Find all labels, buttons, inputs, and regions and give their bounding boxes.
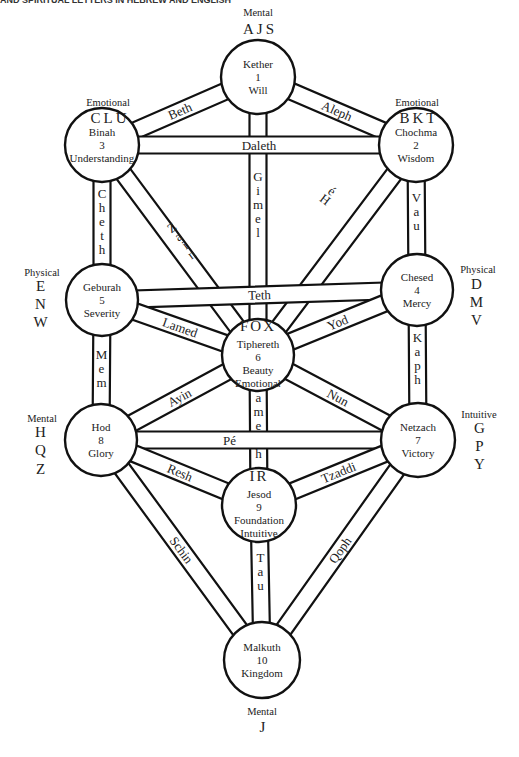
sephira-jesod: IRJesod9FoundationIntuitive: [222, 468, 296, 543]
path-gimel: Gimel: [250, 77, 267, 355]
sephira-text: Severity: [84, 307, 121, 319]
sephira-text: Will: [248, 84, 267, 96]
sephira-text: Emotional: [235, 377, 281, 389]
binah-letters: CLU: [91, 110, 130, 126]
path-label: Pé: [223, 433, 236, 448]
chochma-letters: BKT: [400, 110, 439, 126]
sephira-text: FOX: [240, 318, 276, 334]
sephira-text: Tiphereth: [237, 338, 280, 350]
sephira-text: Malkuth: [243, 641, 281, 653]
sephira-text: Foundation: [234, 514, 285, 526]
netzach-letter-3: Y: [474, 456, 488, 472]
path-label-letter: m: [253, 197, 263, 212]
path-label: Teth: [248, 287, 272, 303]
netzach-category: Intuitive: [461, 409, 497, 420]
sephira-text: Chochma: [395, 126, 437, 138]
sephira-text: 5: [99, 294, 105, 306]
sephira-text: Kether: [243, 58, 273, 70]
path-label-letter: V: [412, 190, 422, 205]
path-label-letter: h: [99, 200, 106, 215]
sephira-kether: Kether1Will: [221, 40, 295, 114]
hod-letter-1: H: [35, 424, 49, 440]
sephira-text: Victory: [402, 447, 435, 459]
malkuth-category: Mental: [247, 706, 277, 717]
path-label-letter: m: [96, 375, 106, 390]
netzach-letter-1: G: [474, 420, 488, 436]
path-daleth: Daleth: [102, 137, 416, 154]
sephira-text: 2: [413, 139, 419, 151]
chesed-letter-2: M: [470, 294, 486, 310]
path-label-letter: M: [96, 347, 108, 362]
sephira-text: Beauty: [242, 364, 274, 376]
path-label-letter: t: [100, 228, 104, 243]
tree-of-life-diagram: AlephBethGimelDalethHéVauZainChethTethYo…: [0, 0, 519, 757]
hod-category: Mental: [27, 413, 57, 424]
path-label-letter: h: [414, 372, 421, 387]
sephira-text: Mercy: [403, 297, 432, 309]
hod-letter-2: Q: [35, 442, 49, 458]
geburah-letter-1: E: [36, 278, 48, 294]
sephira-text: 7: [415, 434, 421, 446]
sephira-text: Hod: [92, 421, 111, 433]
sephira-text: 6: [255, 351, 261, 363]
path-label-letter: u: [413, 218, 420, 233]
sephira-text: Wisdom: [398, 152, 435, 164]
geburah-category: Physical: [24, 267, 60, 278]
binah-category: Emotional: [86, 97, 130, 108]
sephira-text: Netzach: [400, 421, 437, 433]
path-label: Daleth: [242, 138, 277, 153]
path-label-letter: u: [257, 578, 264, 593]
path-label-letter: C: [98, 186, 107, 201]
sephira-hod: Hod8Glory: [65, 404, 137, 476]
kether-category: Mental: [243, 7, 273, 18]
sephira-text: 1: [255, 71, 261, 83]
path-label-letter: m: [253, 404, 263, 419]
path-label-letter: p: [414, 358, 421, 373]
malkuth-letters: J: [260, 719, 269, 735]
path-label-letter: e: [99, 361, 105, 376]
netzach-letter-2: P: [475, 438, 486, 454]
sephira-text: Binah: [89, 126, 116, 138]
sephira-malkuth: Malkuth10Kingdom: [224, 622, 300, 698]
path-label-letter: a: [256, 390, 262, 405]
hod-letter-3: Z: [36, 461, 48, 477]
sephira-text: Intuitive: [240, 527, 277, 539]
sephira-text: 9: [256, 501, 262, 513]
sephira-tiphereth: FOXTiphereth6BeautyEmotional: [222, 318, 294, 392]
sephira-text: 8: [98, 434, 104, 446]
kether-letters: AJS: [243, 21, 277, 37]
path-label-letter: a: [258, 564, 264, 579]
sephira-text: 3: [99, 139, 105, 151]
path-label-letter: i: [256, 183, 260, 198]
path-label-letter: a: [415, 344, 421, 359]
path-label-letter: h: [99, 242, 106, 257]
sephira-netzach: Netzach7Victory: [381, 403, 455, 477]
sephira-text: Chesed: [401, 271, 434, 283]
path-label-letter: T: [257, 550, 265, 565]
sephira-text: Glory: [88, 447, 114, 459]
sephira-text: Geburah: [83, 281, 121, 293]
sephira-text: IR: [250, 468, 269, 484]
chesed-letter-3: V: [471, 312, 485, 328]
sephira-chesed: Chesed4Mercy: [381, 254, 453, 326]
chesed-letter-1: D: [471, 276, 485, 292]
sephira-text: Understanding: [70, 152, 135, 164]
chochma-category: Emotional: [395, 97, 439, 108]
path-label-letter: a: [414, 204, 420, 219]
path-label-letter: l: [256, 225, 260, 240]
geburah-letter-3: W: [33, 314, 50, 330]
path-pe: Pé: [101, 432, 418, 449]
path-label-letter: e: [99, 214, 105, 229]
path-label-letter: e: [255, 211, 261, 226]
chesed-category: Physical: [460, 264, 496, 275]
path-label-letter: K: [413, 330, 423, 345]
geburah-letter-2: N: [35, 296, 49, 312]
sephira-text: 4: [414, 284, 420, 296]
sephira-geburah: Geburah5Severity: [66, 264, 138, 336]
sephira-text: Kingdom: [241, 667, 283, 679]
sephira-text: 10: [257, 654, 269, 666]
path-label-letter: G: [253, 169, 262, 184]
sephira-text: Jesod: [247, 488, 272, 500]
